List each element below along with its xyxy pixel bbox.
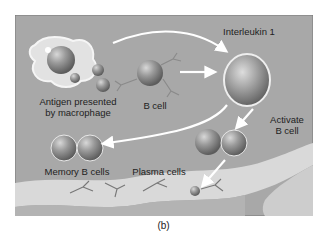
immune-response-diagram: Interleukin 1 Activate B cell B cell Ant… (15, 15, 313, 216)
b-cell (137, 60, 163, 86)
antigen-particle (96, 78, 110, 92)
antigen-particle (70, 73, 80, 83)
label-antigen-line1: Antigen presented (39, 96, 116, 107)
memory-b-cell (51, 135, 77, 161)
label-b-cell: B cell (143, 100, 166, 111)
label-activate-line1: Activate (270, 114, 304, 125)
antigen-particle (92, 64, 104, 76)
label-activate-line2: B cell (275, 125, 298, 136)
label-interleukin: Interleukin 1 (223, 26, 275, 37)
label-plasma-cells: Plasma cells (132, 166, 186, 177)
plasma-cell (195, 129, 221, 155)
plasma-cell-in-vessel (190, 186, 200, 196)
antigen-fragment (45, 47, 51, 53)
macrophage-nucleus (47, 46, 75, 74)
memory-b-cell (77, 135, 103, 161)
label-memory-b-cells: Memory B cells (45, 166, 110, 177)
plasma-cell (221, 130, 247, 156)
label-antigen-line2: by macrophage (45, 107, 110, 118)
activated-b-cell (224, 54, 270, 106)
figure-caption: (b) (0, 220, 327, 231)
